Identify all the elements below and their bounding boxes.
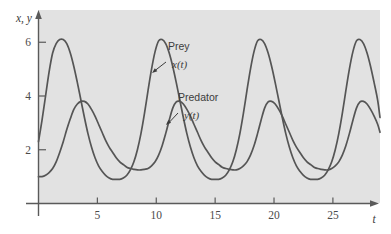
y-axis-label: x, y <box>15 12 33 25</box>
x-tick-label: 15 <box>209 209 221 221</box>
annotation-function-predator: y(t) <box>183 109 200 122</box>
x-tick-label: 5 <box>95 209 101 221</box>
x-tick-label: 10 <box>151 209 163 221</box>
figure-container: 510152025 246 x, y t Preyx(t)Predatory(t… <box>0 0 391 234</box>
x-axis-label: t <box>372 213 376 225</box>
x-tick-label: 25 <box>327 209 339 221</box>
x-tick-label: 20 <box>268 209 280 221</box>
predator-prey-chart: 510152025 246 x, y t Preyx(t)Predatory(t… <box>0 0 391 234</box>
annotation-function-prey: x(t) <box>171 58 188 71</box>
y-tick-label: 2 <box>25 144 31 156</box>
y-tick-label: 4 <box>25 90 31 102</box>
annotation-label-predator: Predator <box>178 91 219 103</box>
y-tick-label: 6 <box>25 36 31 48</box>
annotation-label-prey: Prey <box>168 40 190 52</box>
